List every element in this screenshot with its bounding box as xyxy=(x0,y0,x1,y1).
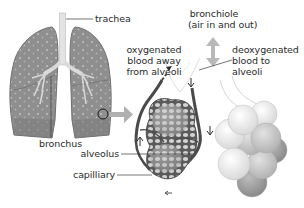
deoxygenated-label-line3: alveoli xyxy=(232,66,299,77)
bronchus-label: bronchus xyxy=(39,138,73,149)
oxygenated-label-line3: from alveoli xyxy=(124,66,184,77)
deoxygenated-label-line1: deoxygenated xyxy=(232,44,299,55)
respiratory-diagram: trachea bronchus bronchiole (air in and … xyxy=(0,0,304,208)
deoxygenated-label-line2: blood to xyxy=(232,55,299,66)
oxygenated-label-line1: oxygenated xyxy=(124,44,184,55)
zoom-arrow xyxy=(109,106,133,123)
oxygenated-label-line2: blood away xyxy=(124,55,184,66)
diagram-artwork xyxy=(0,0,304,208)
trachea-label: trachea xyxy=(95,13,131,24)
oxygenated-blood-label: oxygenated blood away from alveoli xyxy=(124,44,184,77)
bronchiole-label-line1: bronchiole xyxy=(188,8,240,19)
air-flow-arrow xyxy=(206,37,220,67)
bronchiole-label: bronchiole (air in and out) xyxy=(188,8,240,30)
bronchiole-label-line2: (air in and out) xyxy=(188,19,240,30)
alveolus-label: alveolus xyxy=(72,148,119,159)
alveoli-with-capillaries xyxy=(136,58,213,195)
deoxygenated-blood-label: deoxygenated blood to alveoli xyxy=(232,44,299,77)
alveoli-cluster xyxy=(215,101,287,197)
capillary-label: capilliary xyxy=(62,169,115,180)
